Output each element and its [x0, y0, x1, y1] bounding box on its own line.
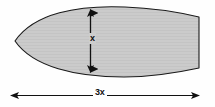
height-dimension-label: x: [89, 33, 96, 44]
width-dimension-label: 3x: [93, 88, 107, 97]
diagram-canvas: x 3x: [0, 0, 215, 107]
lens-shape: [15, 7, 199, 77]
geometry-figure: [0, 0, 215, 107]
